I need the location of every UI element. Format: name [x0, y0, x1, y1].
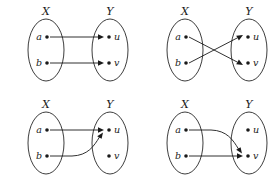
node-dot-b	[45, 154, 49, 158]
domain-oval	[167, 112, 203, 174]
codomain-oval	[231, 112, 267, 174]
node-dot-a	[45, 35, 49, 39]
node-label-v: v	[253, 57, 259, 68]
panel-bottom-right: X Y a b u v	[139, 93, 277, 185]
node-label-b: b	[175, 150, 181, 161]
codomain-oval	[92, 112, 128, 174]
domain-oval	[28, 112, 64, 174]
domain-set-label: X	[41, 98, 51, 111]
node-dot-b	[45, 61, 49, 65]
node-dot-a	[184, 128, 188, 132]
codomain-set-label: Y	[245, 98, 254, 111]
node-label-a: a	[36, 31, 42, 42]
node-dot-a	[45, 128, 49, 132]
node-dot-u	[107, 35, 111, 39]
function-diagrams-figure: X Y a b u v X Y a b	[0, 0, 277, 185]
node-dot-v	[107, 154, 111, 158]
domain-set-label: X	[180, 5, 190, 18]
node-label-b: b	[175, 57, 181, 68]
domain-set-label: X	[41, 5, 51, 18]
panel-top-left: X Y a b u v	[0, 0, 138, 92]
arrowhead-b-to-v	[237, 153, 243, 158]
arrowhead-b-to-u	[97, 133, 103, 139]
node-dot-u	[246, 35, 250, 39]
domain-oval	[28, 19, 64, 81]
node-dot-v	[246, 154, 250, 158]
codomain-oval	[231, 19, 267, 81]
node-label-u: u	[253, 124, 259, 135]
node-label-v: v	[114, 150, 120, 161]
arrowhead-a-to-u	[98, 127, 104, 132]
codomain-set-label: Y	[106, 5, 115, 18]
panel-top-right: X Y a b u v	[139, 0, 277, 92]
node-label-a: a	[175, 124, 181, 135]
node-dot-u	[107, 128, 111, 132]
codomain-oval	[92, 19, 128, 81]
arrowhead-a-to-v	[236, 147, 242, 153]
node-label-a: a	[36, 124, 42, 135]
panel-bottom-left: X Y a b u v	[0, 93, 138, 185]
node-dot-b	[184, 61, 188, 65]
edge-b-to-u	[189, 38, 238, 63]
node-label-b: b	[36, 57, 42, 68]
domain-set-label: X	[180, 98, 190, 111]
codomain-set-label: Y	[245, 5, 254, 18]
node-dot-u	[246, 128, 250, 132]
node-label-v: v	[253, 150, 259, 161]
node-label-b: b	[36, 150, 42, 161]
arrowhead-b-to-v	[98, 60, 104, 65]
node-label-v: v	[114, 57, 120, 68]
node-dot-v	[107, 61, 111, 65]
node-label-u: u	[114, 31, 120, 42]
domain-oval	[167, 19, 203, 81]
node-label-u: u	[253, 31, 259, 42]
codomain-set-label: Y	[106, 98, 115, 111]
arrowhead-a-to-u	[98, 34, 104, 39]
edge-a-to-v	[189, 37, 238, 62]
node-dot-a	[184, 35, 188, 39]
node-dot-b	[184, 154, 188, 158]
node-dot-v	[246, 61, 250, 65]
node-label-u: u	[114, 124, 120, 135]
node-label-a: a	[175, 31, 181, 42]
